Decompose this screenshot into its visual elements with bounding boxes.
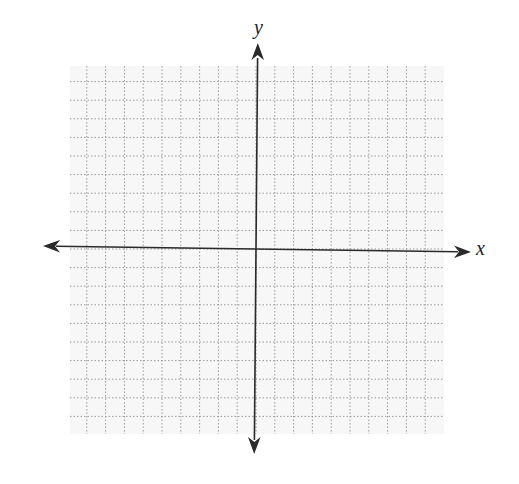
- x-axis-label: x: [476, 238, 485, 258]
- y-axis-up-arrow-icon: [252, 43, 265, 60]
- coordinate-plane: [0, 0, 519, 484]
- y-axis-label: y: [254, 17, 263, 37]
